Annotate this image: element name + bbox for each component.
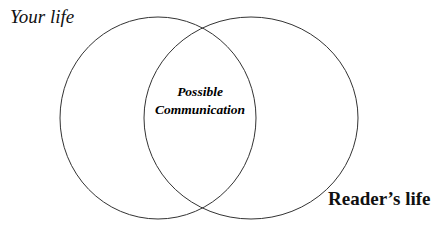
overlap-label: Possible Communication xyxy=(140,83,260,119)
possible-text: Possible xyxy=(140,83,260,101)
venn-diagram: Your life Possible Communication Reader’… xyxy=(0,0,443,231)
communication-text: Communication xyxy=(140,101,260,119)
your-life-label: Your life xyxy=(10,6,74,28)
readers-life-label: Reader’s life xyxy=(328,188,431,210)
